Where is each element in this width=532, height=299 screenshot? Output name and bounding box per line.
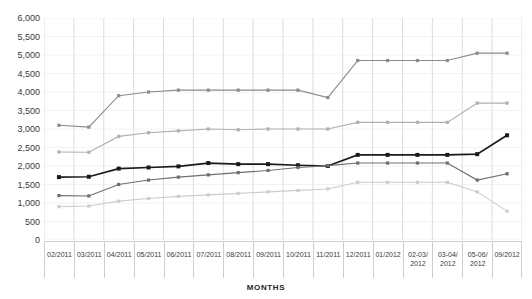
series-marker (237, 171, 240, 174)
series-marker (57, 124, 60, 127)
x-axis-tick-label: 12/2011 (344, 242, 373, 259)
x-axis-tick-label: 01/2012 (374, 242, 403, 259)
x-axis-tick: 09/2012 (492, 242, 522, 278)
series-marker (416, 121, 419, 124)
x-axis-tick-label: 04/2011 (105, 242, 134, 259)
series-marker (117, 167, 121, 171)
series-marker (117, 200, 120, 203)
series-marker (296, 127, 299, 130)
series-marker (177, 176, 180, 179)
x-axis-tick: 07/2011 (193, 242, 223, 278)
y-axis-tick-label: 1,500 (0, 181, 40, 190)
series-marker (117, 94, 120, 97)
x-axis-tick: 11/2011 (313, 242, 343, 278)
series-marker (356, 121, 359, 124)
x-axis-tick: 10/2011 (283, 242, 313, 278)
series-marker (446, 181, 449, 184)
x-axis: 02/201103/201104/201105/201106/201107/20… (44, 241, 522, 277)
series-marker (416, 181, 419, 184)
series-marker (386, 121, 389, 124)
series-marker (87, 194, 90, 197)
x-axis-tick: 01/2012 (373, 242, 403, 278)
y-axis-tick-label: 5,000 (0, 51, 40, 60)
series-marker (147, 178, 150, 181)
series-marker (505, 133, 509, 137)
series-marker (57, 205, 60, 208)
series-marker (476, 52, 479, 55)
x-axis-tick: 12/2011 (343, 242, 373, 278)
x-axis-tick-label: 02-03/ 2012 (404, 242, 433, 268)
y-axis-tick-label: 3,500 (0, 107, 40, 116)
x-axis-tick: 08/2011 (223, 242, 253, 278)
series-marker (57, 175, 61, 179)
x-axis-tick-label: 02/2011 (45, 242, 74, 259)
x-axis-tick-label: 05-06/ 2012 (463, 242, 492, 268)
series-marker (415, 153, 419, 157)
series-marker (356, 59, 359, 62)
x-axis-tick-label: 11/2011 (314, 242, 343, 259)
x-axis-tick: 06/2011 (164, 242, 194, 278)
x-axis-tick: 02/2011 (44, 242, 74, 278)
series-marker (266, 162, 270, 166)
series-marker (147, 131, 150, 134)
y-axis-tick-label: 1,000 (0, 199, 40, 208)
series-marker (57, 194, 60, 197)
x-axis-tick: 05-06/ 2012 (462, 242, 492, 278)
series-marker (87, 204, 90, 207)
series-marker (236, 162, 240, 166)
x-axis-tick-label: 03-04/ 2012 (433, 242, 462, 268)
series-marker (176, 164, 180, 168)
series-marker (207, 127, 210, 130)
series-marker (237, 89, 240, 92)
series-marker (356, 161, 359, 164)
series-marker (177, 89, 180, 92)
series-marker (416, 59, 419, 62)
y-axis-tick-label: 2,000 (0, 162, 40, 171)
series-marker (475, 152, 479, 156)
series-marker (356, 181, 359, 184)
series-marker (57, 150, 60, 153)
x-axis-tick: 03/2011 (74, 242, 104, 278)
x-axis-tick: 09/2011 (253, 242, 283, 278)
series-marker (296, 166, 299, 169)
series-marker (386, 181, 389, 184)
chart-legend: ——————————————— (18, 0, 218, 7)
series-marker (476, 102, 479, 105)
series-marker (505, 210, 508, 213)
series-marker (117, 183, 120, 186)
series-marker (505, 102, 508, 105)
x-axis-tick-label: 06/2011 (165, 242, 194, 259)
series-marker (296, 89, 299, 92)
series-marker (206, 161, 210, 165)
y-axis-tick-label: 5,500 (0, 33, 40, 42)
series-marker (147, 90, 150, 93)
series-marker (296, 189, 299, 192)
y-axis-tick-label: 4,000 (0, 88, 40, 97)
x-axis-tick-label: 05/2011 (135, 242, 164, 259)
series-marker (386, 161, 389, 164)
series-marker (117, 135, 120, 138)
series-marker (416, 161, 419, 164)
y-axis-tick-label: 4,500 (0, 70, 40, 79)
series-marker (237, 128, 240, 131)
series-marker (207, 193, 210, 196)
series-marker (446, 161, 449, 164)
series-marker (266, 127, 269, 130)
x-axis-tick-label: 03/2011 (75, 242, 104, 259)
series-marker (505, 52, 508, 55)
y-axis-tick-label: 3,000 (0, 125, 40, 134)
series-marker (87, 126, 90, 129)
x-axis-tick: 04/2011 (104, 242, 134, 278)
y-axis: 6,0005,5005,0004,5004,0003,5003,0002,500… (0, 18, 40, 240)
x-axis-tick: 05/2011 (134, 242, 164, 278)
x-axis-tick: 03-04/ 2012 (432, 242, 462, 278)
x-axis-tick-label: 09/2011 (254, 242, 283, 259)
series-marker (326, 96, 329, 99)
y-axis-tick-label: 0 (0, 236, 40, 245)
y-axis-tick-label: 6,000 (0, 14, 40, 23)
y-axis-tick-label: 2,500 (0, 144, 40, 153)
series-marker (207, 173, 210, 176)
series-marker (266, 190, 269, 193)
series-marker (356, 153, 360, 157)
x-axis-tick-label: 10/2011 (284, 242, 313, 259)
